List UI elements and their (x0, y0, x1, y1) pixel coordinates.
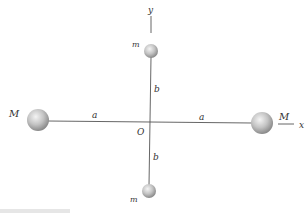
small-mass-bottom-label: m (130, 195, 138, 204)
distance-b-upper: b (154, 84, 160, 94)
large-mass-left-label: M (8, 108, 20, 119)
small-mass-top (144, 44, 158, 58)
origin-label: O (137, 127, 145, 137)
small-mass-bottom (142, 184, 156, 198)
x-axis-label: x (299, 120, 304, 130)
distance-b-lower: b (153, 152, 159, 162)
bottom-edge-strip (0, 209, 70, 213)
large-mass-left (27, 109, 49, 131)
small-mass-top-label: m (132, 40, 140, 49)
distance-a-right: a (199, 112, 204, 122)
vertical-rod (149, 57, 151, 185)
mass-configuration-diagram: y x O M M m m a a b b (0, 0, 307, 213)
y-axis-label: y (147, 5, 154, 15)
large-mass-right (251, 112, 273, 134)
distance-a-left: a (92, 110, 97, 120)
large-mass-right-label: M (278, 111, 290, 122)
